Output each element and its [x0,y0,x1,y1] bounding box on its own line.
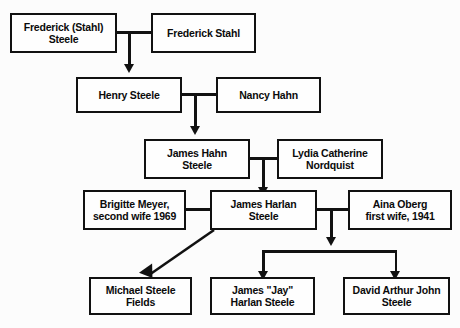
node-line-1: Brigitte Meyer, [91,198,178,211]
node-line-2: Harlan Steele [229,296,297,309]
node-label: Henry Steele [94,89,163,102]
node-line-2: Steele [22,33,105,46]
node-line-1: David Arthur John [351,284,443,297]
node-henry-steele: Henry Steele [76,77,182,113]
node-line-1: Nancy Hahn [237,89,300,102]
node-aina-oberg: Aina Oberg first wife, 1941 [348,190,452,230]
node-label: James Hahn Steele [163,147,231,172]
node-label: Aina Oberg first wife, 1941 [361,198,438,223]
node-label: Lydia Catherine Nordquist [288,147,371,172]
node-line-1: Frederick (Stahl) [22,21,105,34]
node-label: Michael Steele Fields [102,284,180,309]
family-tree-diagram: Frederick (Stahl) Steele Frederick Stahl… [0,0,460,328]
node-label: David Arthur John Steele [349,284,445,309]
connector-descent-gen4-right [330,208,333,240]
node-line-2: Fields [104,296,178,309]
node-label: Frederick (Stahl) Steele [20,21,107,46]
node-line-2: Steele [229,210,299,223]
node-james-jay-harlan-steele: James "Jay" Harlan Steele [210,277,315,315]
node-line-2: Nordquist [290,159,369,172]
connector-marriage-gen1 [117,31,151,34]
connector-marriage-brigitte [186,208,210,211]
node-brigitte-meyer: Brigitte Meyer, second wife 1969 [83,190,186,230]
node-lydia-catherine-nordquist: Lydia Catherine Nordquist [277,139,383,179]
node-david-arthur-john-steele: David Arthur John Steele [343,277,450,315]
connector-marriage-aina [317,208,348,211]
node-label: James "Jay" Harlan Steele [227,284,299,309]
connector-descent-gen2 [194,93,197,129]
node-line-1: James Hahn [165,147,229,160]
arrow-to-henry-steele [124,64,134,73]
node-line-2: first wife, 1941 [363,210,436,223]
node-line-1: Aina Oberg [363,198,436,211]
node-line-1: Lydia Catherine [290,147,369,160]
connector-sibling-bus [262,250,397,253]
node-label: James Harlan Steele [227,198,301,223]
node-label: Brigitte Meyer, second wife 1969 [89,198,180,223]
node-line-2: Steele [351,296,443,309]
node-line-1: James "Jay" [229,284,297,297]
node-frederick-stahl-steele: Frederick (Stahl) Steele [10,13,117,53]
node-line-1: Michael Steele [104,284,178,297]
connector-descent-gen1 [128,31,131,67]
connector-marriage-gen2 [182,93,216,96]
node-james-harlan-steele: James Harlan Steele [210,190,317,230]
node-james-hahn-steele: James Hahn Steele [144,139,250,179]
connector-descent-gen3 [262,157,265,190]
node-line-1: Frederick Stahl [165,27,242,40]
node-michael-steele-fields: Michael Steele Fields [89,277,192,315]
node-frederick-stahl: Frederick Stahl [151,13,256,53]
node-label: Frederick Stahl [163,27,244,40]
arrow-to-james-hahn-steele [190,126,200,135]
node-line-1: Henry Steele [96,89,161,102]
arrow-descent-gen4-right [326,237,336,246]
node-line-2: Steele [165,159,229,172]
node-nancy-hahn: Nancy Hahn [216,77,321,113]
node-line-1: James Harlan [229,198,299,211]
node-label: Nancy Hahn [235,89,302,102]
node-line-2: second wife 1969 [91,210,178,223]
